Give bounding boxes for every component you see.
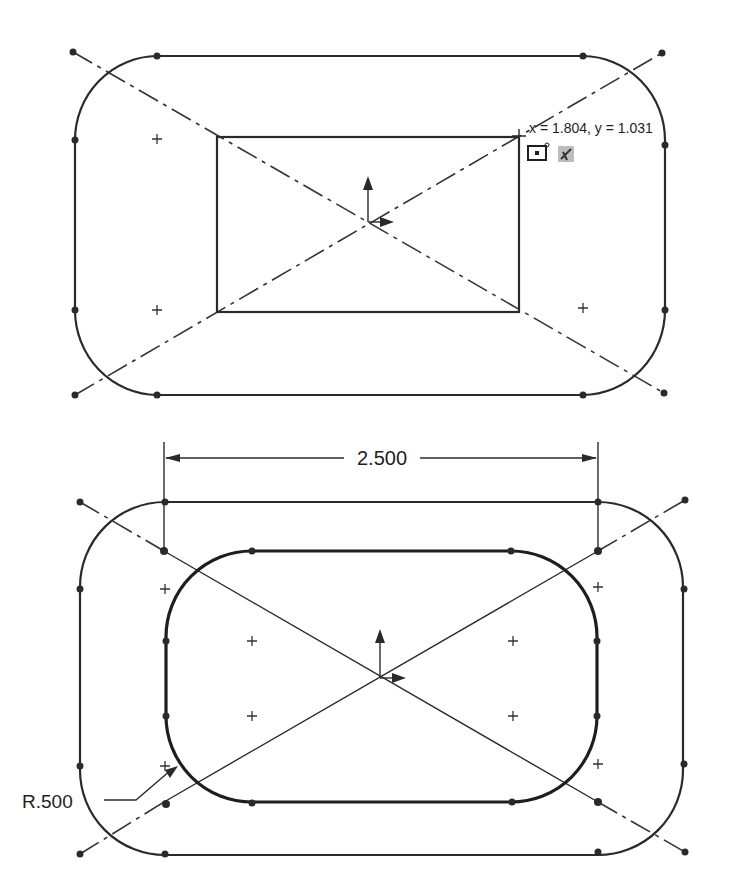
radius-dimension[interactable]: R.500 [22, 766, 178, 812]
bottom-sketch: 2.500 [22, 442, 689, 858]
origin-icon[interactable] [363, 176, 394, 227]
sketch-canvas[interactable]: x = 1.804, y = 1.031 2.500 [0, 0, 750, 894]
width-dimension[interactable]: 2.500 [164, 442, 598, 551]
radius-dimension-label: R.500 [22, 791, 73, 812]
construction-diagonal-1-outer-end[interactable] [598, 802, 685, 852]
top-sketch: x = 1.804, y = 1.031 [70, 49, 669, 399]
origin-icon[interactable] [375, 629, 406, 683]
width-dimension-label: 2.500 [357, 447, 407, 469]
point-inference-icon [528, 143, 549, 160]
construction-diagonal-2-outer[interactable] [80, 802, 164, 854]
coincident-relation-icon [558, 146, 574, 162]
cursor-crosshair-icon [512, 129, 526, 143]
cursor-coordinate-readout: x = 1.804, y = 1.031 [529, 120, 653, 136]
offset-rounded-rectangle[interactable] [75, 56, 665, 395]
